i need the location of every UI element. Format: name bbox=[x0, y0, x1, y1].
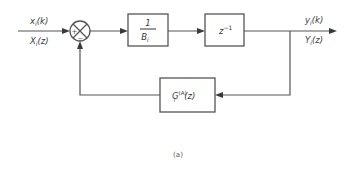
feedback-wire-left bbox=[80, 45, 160, 95]
feedback-block: G(A)i(z) bbox=[160, 78, 215, 112]
input-time-label: xi(k) bbox=[29, 16, 48, 27]
output-time-label: yi(k) bbox=[304, 15, 323, 26]
output-arrow-icon bbox=[329, 28, 337, 34]
summing-junction: + − bbox=[70, 21, 90, 43]
input-z-label: Xi(z) bbox=[29, 36, 49, 47]
arrow-icon bbox=[197, 28, 205, 34]
input-arrow-icon bbox=[62, 28, 70, 34]
minus-sign: − bbox=[78, 35, 84, 43]
caption: (a) bbox=[173, 151, 183, 159]
gain-numerator: 1 bbox=[145, 18, 150, 28]
arrow-icon bbox=[120, 28, 128, 34]
block-diagram: xi(k) Xi(z) + − 1 Bi z−1 yi(k) Yi(z) G(A… bbox=[0, 0, 351, 172]
feedback-arrow-icon bbox=[215, 92, 223, 98]
delay-block: z−1 bbox=[205, 14, 244, 46]
output-z-label: Yi(z) bbox=[305, 35, 323, 46]
gain-block: 1 Bi bbox=[128, 14, 168, 46]
